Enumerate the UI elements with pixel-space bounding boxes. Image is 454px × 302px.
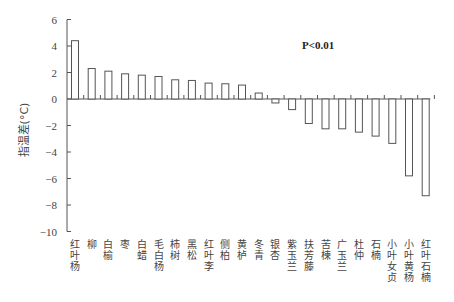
bar-chart: 6420−2−4−6−8−10 红叶杨柳白榆枣白蜡毛白杨柿树黑松红叶李侧柏黄栌冬… — [0, 0, 454, 302]
bar — [88, 69, 95, 99]
category-label: 冬青 — [254, 238, 264, 261]
y-tick-label: 6 — [52, 14, 58, 26]
bar — [122, 74, 129, 99]
bar — [289, 99, 296, 110]
y-tick-label: −4 — [45, 146, 57, 158]
y-tick-label: −10 — [40, 226, 58, 238]
bar — [172, 80, 179, 99]
category-label: 广玉兰 — [337, 239, 347, 272]
bar — [222, 84, 229, 99]
y-tick-label: −8 — [45, 199, 57, 211]
category-label: 侧柏 — [220, 238, 230, 261]
significance-annotation: P<0.01 — [302, 39, 334, 51]
category-label: 小叶黄杨 — [404, 239, 414, 283]
category-label: 扶芳藤 — [304, 238, 314, 272]
bar — [305, 99, 312, 124]
category-label: 柿树 — [170, 238, 180, 261]
bar — [322, 99, 329, 129]
bar — [272, 99, 279, 103]
y-axis-label: 指温差(°C) — [17, 103, 31, 158]
bar — [422, 99, 429, 196]
category-label: 枣 — [120, 239, 130, 250]
category-label: 黑松 — [187, 239, 197, 261]
bar — [339, 99, 346, 129]
y-tick-label: −6 — [45, 173, 57, 185]
category-label: 红叶杨 — [70, 238, 80, 272]
category-label: 石楠 — [371, 239, 381, 261]
category-label: 银杏 — [270, 238, 280, 261]
category-label: 白蜡 — [137, 238, 147, 261]
category-label: 杜仲 — [354, 238, 364, 261]
y-tick-label: −2 — [45, 120, 57, 132]
category-label: 红叶石楠 — [421, 238, 431, 283]
y-tick-label: 4 — [52, 40, 58, 52]
bar — [372, 99, 379, 136]
category-label: 红叶李 — [204, 238, 214, 272]
y-tick-label: 2 — [52, 67, 58, 79]
y-tick-label: 0 — [52, 93, 58, 105]
category-label: 白榆 — [103, 238, 113, 261]
bar — [389, 99, 396, 143]
bar — [138, 75, 145, 99]
category-label: 黄栌 — [237, 238, 247, 261]
category-label: 小叶女贞 — [387, 239, 397, 283]
category-label: 毛白杨 — [154, 239, 164, 272]
bar — [105, 71, 112, 99]
bar — [72, 41, 79, 99]
bar — [205, 83, 212, 99]
bar — [255, 93, 262, 99]
bar — [188, 80, 195, 99]
category-label: 柳 — [87, 238, 97, 250]
category-label: 紫玉兰 — [287, 239, 297, 272]
category-label: 苦楝 — [321, 238, 331, 261]
bar — [355, 99, 362, 132]
bars — [72, 41, 430, 196]
bar — [239, 85, 246, 99]
bar — [155, 76, 162, 99]
category-labels: 红叶杨柳白榆枣白蜡毛白杨柿树黑松红叶李侧柏黄栌冬青银杏紫玉兰扶芳藤苦楝广玉兰杜仲… — [70, 238, 431, 283]
bar — [406, 99, 413, 176]
